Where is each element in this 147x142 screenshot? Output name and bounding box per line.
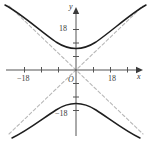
hyperbola-figure: 18 −18 18 −18 O y x	[0, 0, 147, 142]
plot-canvas	[0, 0, 147, 142]
y-axis-arrowhead	[73, 7, 79, 14]
x-axis-name-label: x	[137, 73, 141, 81]
y-axis-tick-label-positive: 18	[59, 25, 67, 33]
origin-label: O	[68, 76, 74, 84]
y-axis-name-label: y	[69, 3, 73, 11]
x-axis-tick-label-positive: 18	[108, 75, 116, 83]
y-axis-tick-label-negative: −18	[55, 110, 68, 118]
x-axis-tick-label-negative: −18	[17, 75, 30, 83]
